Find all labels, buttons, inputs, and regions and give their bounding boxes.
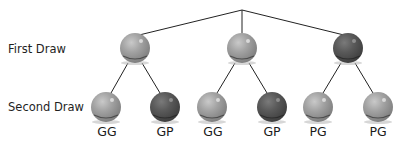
ball-green-icon	[120, 33, 150, 65]
second-draw-balls	[91, 92, 393, 124]
probability-tree-diagram: First Draw Second Draw GG GP GG GP PG PG	[0, 0, 405, 147]
ball-green-icon	[91, 92, 121, 124]
ball-purple-icon	[150, 92, 180, 124]
outcome-label: GP	[263, 124, 280, 139]
second-draw-label: Second Draw	[8, 100, 84, 114]
ball-green-icon	[197, 92, 227, 124]
ball-purple-icon	[333, 33, 363, 65]
ball-purple-icon	[257, 92, 287, 124]
ball-green-icon	[303, 92, 333, 124]
first-draw-balls	[120, 33, 363, 65]
ball-green-icon	[227, 33, 257, 65]
outcome-label: GG	[203, 124, 222, 139]
outcome-label: PG	[309, 124, 326, 139]
outcome-label: PG	[369, 124, 386, 139]
outcome-label: GG	[97, 124, 116, 139]
first-draw-label: First Draw	[8, 42, 66, 56]
ball-green-icon	[363, 92, 393, 124]
outcome-label: GP	[156, 124, 173, 139]
